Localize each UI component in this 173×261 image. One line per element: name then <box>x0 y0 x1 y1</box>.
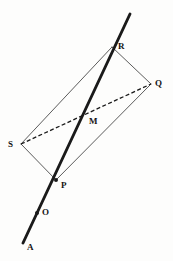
geometry-figure: R Q M S P O A <box>0 0 173 261</box>
edge-R-Q <box>112 47 151 84</box>
point-label-Q: Q <box>155 79 162 88</box>
point-label-P: P <box>61 181 67 190</box>
edge-P-S <box>21 144 56 180</box>
point-marker-P <box>54 178 58 182</box>
point-label-S: S <box>8 140 13 149</box>
diagonal-S-Q-dashed <box>21 84 151 144</box>
point-label-M: M <box>89 117 98 126</box>
diagram-canvas <box>0 0 173 261</box>
point-label-R: R <box>118 42 125 51</box>
thick-ray-A-to-R <box>23 14 130 243</box>
point-label-A: A <box>27 243 34 252</box>
edge-S-R <box>21 47 112 144</box>
point-marker-O <box>35 211 39 215</box>
point-label-O: O <box>42 208 49 217</box>
edge-Q-P <box>56 84 151 180</box>
